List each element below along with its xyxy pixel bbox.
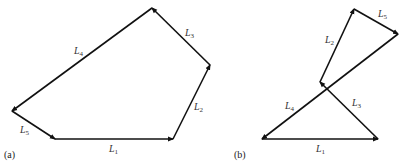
label-b-L5: L5 [377, 8, 388, 21]
link-b-L5 [354, 9, 398, 34]
label-b-L2: L2 [324, 34, 335, 47]
diagram-canvas: L1 L2 L3 L4 L5 (a) L1 L2 L3 L4 L5 (b) [0, 0, 410, 167]
label-b-L3: L3 [351, 97, 362, 110]
diagram-b [262, 9, 398, 139]
label-a-L1: L1 [108, 143, 119, 156]
link-b-L4 [262, 34, 398, 139]
link-a-L4 [12, 8, 152, 111]
diagram-a [12, 8, 210, 139]
diagram-b-labels: L1 L2 L3 L4 L5 (b) [234, 8, 388, 161]
link-b-L3 [320, 82, 378, 139]
label-a-L3: L3 [184, 27, 195, 40]
link-a-L2 [173, 65, 210, 139]
link-a-L3 [152, 8, 210, 65]
label-b-L4: L4 [284, 100, 295, 113]
link-a-L5 [12, 111, 55, 139]
label-a-L2: L2 [193, 101, 204, 114]
caption-a: (a) [4, 149, 15, 161]
caption-b: (b) [234, 149, 246, 161]
label-a-L4: L4 [73, 45, 84, 58]
label-b-L1: L1 [315, 143, 326, 156]
label-a-L5: L5 [19, 124, 30, 137]
